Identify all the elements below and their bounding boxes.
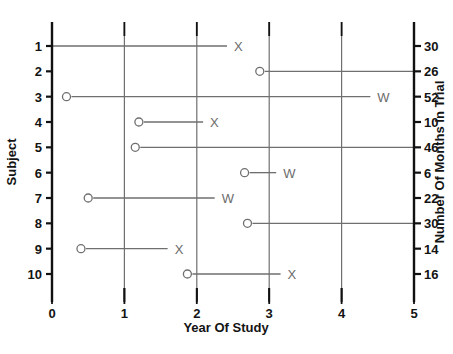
x-tick-label-2: 2	[193, 306, 200, 321]
series-row-subject-2	[256, 67, 414, 75]
series-row-subject-4: X	[135, 115, 219, 130]
left-tick-label-5: 5	[35, 140, 42, 155]
series-row-subject-1: X	[52, 39, 243, 54]
marker-x-icon: X	[210, 115, 219, 130]
y-axis-title: Subject	[4, 138, 19, 186]
left-tick-label-7: 7	[35, 191, 42, 206]
series-row-subject-10: X	[183, 267, 296, 282]
right-tick-label-5: 6	[424, 166, 431, 181]
left-tick-label-1: 1	[35, 39, 42, 54]
series-row-subject-7: W	[84, 191, 234, 206]
marker-o-icon	[135, 118, 143, 126]
marker-o-icon	[84, 194, 92, 202]
series-row-subject-6: W	[241, 166, 297, 181]
vertical-grid-lines	[124, 22, 341, 302]
marker-o-icon	[243, 219, 251, 227]
x-axis-title: Year Of Study	[183, 320, 269, 335]
left-tick-label-6: 6	[35, 166, 42, 181]
x-axis-ticks: 012345	[48, 288, 417, 321]
left-tick-label-10: 10	[28, 267, 42, 282]
left-axis-ticks: 12345678910	[28, 39, 52, 282]
series-row-subject-5	[131, 143, 414, 151]
marker-o-icon	[256, 67, 264, 75]
marker-o-icon	[62, 93, 70, 101]
y2-axis-title: Number Of Months in Trial	[432, 81, 447, 244]
marker-x-icon: X	[234, 39, 243, 54]
x-tick-label-4: 4	[338, 306, 346, 321]
x-tick-label-3: 3	[266, 306, 273, 321]
marker-w-icon: W	[283, 166, 296, 181]
right-tick-label-0: 30	[424, 39, 438, 54]
chart-container: XWXWWXX 12345678910 3026521046622301416 …	[0, 0, 453, 354]
subject-timeline-chart: XWXWWXX 12345678910 3026521046622301416 …	[0, 0, 453, 354]
marker-x-icon: X	[175, 242, 184, 257]
left-tick-label-3: 3	[35, 90, 42, 105]
marker-o-icon	[183, 270, 191, 278]
marker-w-icon: W	[222, 191, 235, 206]
x-tick-label-1: 1	[121, 306, 128, 321]
right-tick-label-1: 26	[424, 64, 438, 79]
marker-o-icon	[131, 143, 139, 151]
series-row-subject-9: X	[77, 242, 184, 257]
right-tick-label-9: 16	[424, 267, 438, 282]
left-tick-label-8: 8	[35, 216, 42, 231]
left-tick-label-4: 4	[35, 115, 43, 130]
marker-o-icon	[241, 169, 249, 177]
marker-w-icon: W	[377, 90, 390, 105]
left-tick-label-9: 9	[35, 242, 42, 257]
series-layer: XWXWWXX	[52, 39, 414, 282]
marker-o-icon	[77, 245, 85, 253]
left-tick-label-2: 2	[35, 64, 42, 79]
x-tick-label-0: 0	[48, 306, 55, 321]
marker-x-icon: X	[288, 267, 297, 282]
x-tick-label-5: 5	[410, 306, 417, 321]
